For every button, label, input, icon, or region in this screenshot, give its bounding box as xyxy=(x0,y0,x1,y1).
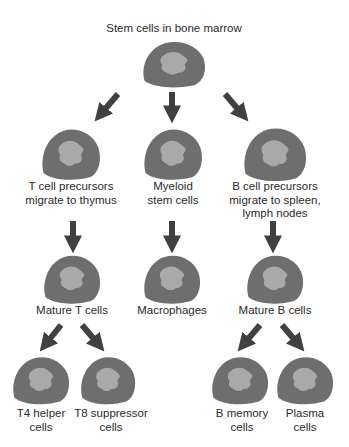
label-macrophages: Macrophages xyxy=(137,304,207,318)
label-mature-t: Mature T cells xyxy=(36,304,108,318)
cell-b-memory xyxy=(212,357,268,404)
cell-t4-helper xyxy=(13,357,69,404)
label-b-precursors: B cell precursors migrate to spleen, lym… xyxy=(229,180,320,221)
cell-macrophages xyxy=(144,256,200,304)
label-b-memory: B memory cells xyxy=(216,407,268,434)
arrow-mature-t-to-t8 xyxy=(82,325,99,345)
label-t8-suppressor: T8 suppressor cells xyxy=(74,407,148,434)
cell-mature-t xyxy=(44,256,100,304)
label-myeloid: Myeloid stem cells xyxy=(147,180,198,207)
arrow-mature-t-to-t4 xyxy=(45,325,61,345)
cell-b-precursors xyxy=(244,128,306,181)
arrow-stem-to-t xyxy=(100,94,118,115)
cell-lineage-diagram xyxy=(0,0,349,447)
cell-t8-suppressor xyxy=(81,357,135,404)
cell-mature-b xyxy=(247,256,303,304)
title-label: Stem cells in bone marrow xyxy=(106,22,242,36)
label-t-precursors: T cell precursors migrate to thymus xyxy=(25,180,116,207)
cell-stem xyxy=(143,42,205,87)
label-t4-helper: T4 helper cells xyxy=(17,407,66,434)
label-plasma: Plasma cells xyxy=(286,407,324,434)
arrow-mature-b-to-plasma xyxy=(282,325,299,345)
cell-myeloid xyxy=(144,130,202,180)
label-mature-b: Mature B cells xyxy=(239,304,312,318)
arrow-stem-to-b xyxy=(225,94,243,115)
cell-t-precursors xyxy=(42,130,100,180)
cell-plasma xyxy=(277,357,333,404)
arrow-mature-b-to-memory xyxy=(243,325,260,345)
